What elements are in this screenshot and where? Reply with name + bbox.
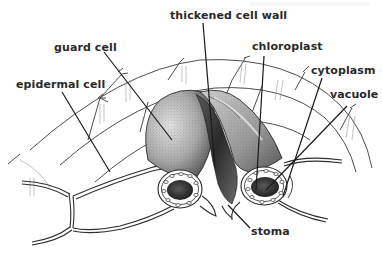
- leader-cytoplasm: [283, 78, 322, 196]
- label-vacuole: vacuole: [330, 88, 378, 101]
- diagram-canvas: thickened cell wall guard cell epidermal…: [0, 0, 382, 256]
- ghost-text: [250, 2, 370, 6]
- cross-section-left: [158, 170, 202, 208]
- cross-section-right: [241, 167, 293, 205]
- stoma-diagram: thickened cell wall guard cell epidermal…: [0, 0, 382, 256]
- label-epidermal-cell: epidermal cell: [16, 78, 105, 91]
- label-stoma: stoma: [251, 225, 290, 238]
- leader-guard-cell: [104, 52, 172, 140]
- label-guard-cell: guard cell: [54, 41, 117, 54]
- label-cytoplasm: cytoplasm: [311, 64, 375, 77]
- label-thickened-cell-wall: thickened cell wall: [170, 9, 287, 22]
- label-chloroplast: chloroplast: [252, 40, 323, 53]
